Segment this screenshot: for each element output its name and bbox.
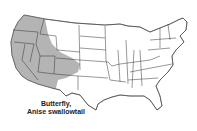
caption-line-1: Butterfly, — [26, 100, 86, 108]
caption-line-2: Anise swallowtail — [26, 108, 86, 116]
map-caption: Butterfly, Anise swallowtail — [26, 100, 86, 116]
